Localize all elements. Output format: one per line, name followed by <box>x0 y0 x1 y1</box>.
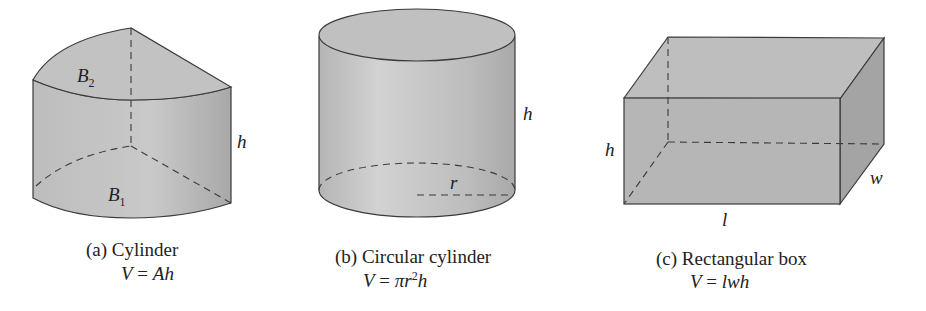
caption-b: (b) Circular cylinder <box>335 246 491 268</box>
cylinder-sector <box>33 28 231 218</box>
caption-c: (c) Rectangular box <box>656 248 807 270</box>
label-height-c: h <box>605 139 615 161</box>
formula-c: V = lwh <box>690 271 749 293</box>
circular-cylinder <box>319 9 515 217</box>
caption-a: (a) Cylinder <box>86 239 178 261</box>
label-height-a: h <box>237 131 247 153</box>
formula-a: V = Ah <box>121 263 174 285</box>
label-b2: B2 <box>77 65 95 91</box>
formula-b: V = πr2h <box>363 269 427 292</box>
rectangular-box <box>624 37 884 204</box>
label-length: l <box>722 209 727 231</box>
label-width: w <box>870 167 883 189</box>
label-radius: r <box>450 172 457 194</box>
label-height-b: h <box>523 103 533 125</box>
label-b1: B1 <box>108 184 126 210</box>
